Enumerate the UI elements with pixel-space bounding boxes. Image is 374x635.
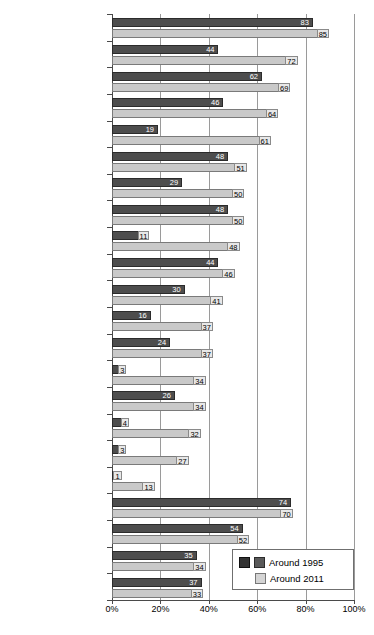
bar-around-2011-18 — [112, 509, 281, 518]
y-tick — [107, 387, 112, 388]
bar-value-label: 51 — [234, 163, 246, 172]
bar-value-label: 3 — [118, 365, 126, 374]
y-tick — [107, 334, 112, 335]
y-tick — [107, 520, 112, 521]
bar-value-label: 70 — [280, 509, 292, 518]
bar-value-label: 41 — [210, 296, 222, 305]
bar-value-label: 85 — [317, 29, 329, 38]
x-axis-tick-label: 40% — [200, 604, 218, 614]
bar-value-label: 24 — [158, 338, 168, 347]
bar-around-2011-15 — [112, 429, 189, 438]
bar-around-2011-20 — [112, 562, 194, 571]
bar-around-1995-19 — [112, 524, 243, 533]
bar-value-label: 27 — [176, 456, 188, 465]
y-tick — [107, 41, 112, 42]
bar-around-1995-7 — [112, 205, 228, 214]
y-tick — [107, 414, 112, 415]
bar-value-label: 33 — [191, 589, 203, 598]
bar-around-1995-0 — [112, 18, 313, 27]
bar-around-2011-7 — [112, 216, 233, 225]
x-axis-tick-label: 100% — [342, 604, 365, 614]
bar-around-2011-6 — [112, 189, 233, 198]
legend-label-around-1995: Around 1995 — [269, 557, 323, 568]
y-tick — [107, 280, 112, 281]
bar-value-label: 83 — [301, 18, 311, 27]
bar-value-label: 37 — [189, 578, 199, 587]
bar-value-label: 50 — [232, 189, 244, 198]
bar-value-label: 19 — [146, 125, 156, 134]
bar-around-2011-1 — [112, 56, 286, 65]
x-axis-tick-label: 80% — [297, 604, 315, 614]
bar-value-label: 34 — [193, 376, 205, 385]
bar-value-label: 64 — [266, 109, 278, 118]
bar-value-label: 34 — [193, 402, 205, 411]
bar-value-label: 46 — [222, 269, 234, 278]
grid-line-100 — [354, 14, 355, 600]
y-tick — [107, 67, 112, 68]
y-tick — [107, 600, 112, 601]
y-tick — [107, 254, 112, 255]
bar-value-label: 44 — [206, 45, 216, 54]
bar-around-2011-10 — [112, 296, 211, 305]
y-tick — [107, 547, 112, 548]
bar-around-2011-8 — [112, 242, 228, 251]
bar-value-label: 37 — [201, 349, 213, 358]
bar-value-label: 69 — [278, 83, 290, 92]
bar-value-label: 13 — [142, 482, 154, 491]
bar-value-label: 48 — [216, 152, 226, 161]
bar-value-label: 62 — [250, 72, 260, 81]
y-tick — [107, 307, 112, 308]
x-axis-tick-label: 20% — [151, 604, 169, 614]
y-tick — [107, 147, 112, 148]
y-tick — [107, 121, 112, 122]
bar-value-label: 30 — [172, 285, 182, 294]
y-tick — [107, 174, 112, 175]
bar-around-2011-12 — [112, 349, 202, 358]
bar-value-label: 52 — [237, 535, 249, 544]
bar-around-2011-16 — [112, 456, 177, 465]
bar-around-2011-19 — [112, 535, 238, 544]
legend-item-around-2011: Around 2011 — [255, 572, 324, 585]
bar-around-1995-18 — [112, 498, 291, 507]
legend-label-around-2011: Around 2011 — [270, 573, 324, 584]
x-axis-tick-label: 0% — [105, 604, 118, 614]
bar-value-label: 54 — [230, 524, 240, 533]
bar-around-2011-5 — [112, 163, 235, 172]
bar-around-2011-21 — [112, 589, 192, 598]
bar-value-label: 29 — [170, 178, 180, 187]
bar-value-label: 48 — [227, 242, 239, 251]
bar-value-label: 46 — [211, 98, 221, 107]
bar-around-1995-3 — [112, 98, 223, 107]
legend-swatch-dark-b — [254, 557, 265, 568]
bar-around-1995-8 — [112, 231, 139, 240]
bar-around-1995-9 — [112, 258, 218, 267]
y-tick — [107, 14, 112, 15]
bar-value-label: 61 — [259, 136, 271, 145]
bar-value-label: 32 — [188, 429, 200, 438]
y-tick — [107, 227, 112, 228]
bar-value-label: 3 — [118, 445, 126, 454]
bar-around-2011-0 — [112, 29, 318, 38]
bar-around-1995-1 — [112, 45, 218, 54]
y-tick — [107, 493, 112, 494]
bar-value-label: 35 — [184, 551, 194, 560]
bar-value-label: 11 — [138, 231, 150, 240]
bar-value-label: 26 — [163, 391, 173, 400]
bar-around-2011-4 — [112, 136, 260, 145]
bar-value-label: 72 — [285, 56, 297, 65]
y-tick — [107, 440, 112, 441]
bar-value-label: 44 — [206, 258, 216, 267]
bar-around-1995-5 — [112, 152, 228, 161]
bar-around-2011-11 — [112, 322, 202, 331]
y-tick — [107, 360, 112, 361]
bar-around-1995-21 — [112, 578, 202, 587]
legend-swatch-dark-a — [239, 557, 250, 568]
y-tick — [107, 573, 112, 574]
bar-around-2011-2 — [112, 83, 279, 92]
bar-value-label: 34 — [193, 562, 205, 571]
bar-chart: Rwanda(1992, 2010)Malawi(2000, 2010)Buru… — [0, 0, 374, 635]
x-axis-tick-label: 60% — [248, 604, 266, 614]
bar-around-2011-13 — [112, 376, 194, 385]
legend-swatch-light — [255, 573, 266, 584]
bar-value-label: 16 — [138, 311, 148, 320]
